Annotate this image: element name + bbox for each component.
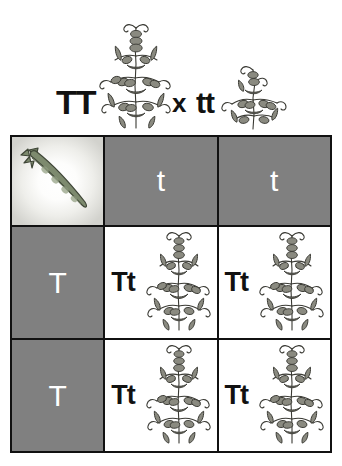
tall-pea-plant-icon <box>256 228 328 331</box>
punnett-offspring-row: T Tt <box>11 339 331 452</box>
row-header-allele-label: T <box>12 381 103 411</box>
tall-pea-plant-icon <box>143 341 215 444</box>
offspring-genotype-label: Tt <box>111 380 134 411</box>
punnett-header-row: t t <box>11 136 331 226</box>
short-pea-plant-icon <box>219 54 289 130</box>
tall-pea-plant-icon <box>93 16 179 130</box>
punnett-corner-cell <box>11 136 104 226</box>
punnett-square: t t T Tt <box>10 135 332 453</box>
tall-pea-plant-icon <box>256 341 328 444</box>
punnett-cell-r1c2: Tt <box>218 226 331 339</box>
punnett-offspring-row: T Tt <box>11 226 331 339</box>
cross-header: TT <box>0 0 342 133</box>
offspring-genotype-label: Tt <box>225 267 248 298</box>
parent-b-genotype-label: tt <box>196 88 214 118</box>
punnett-column-header-1: t <box>104 136 217 226</box>
pea-pod-icon <box>16 139 98 217</box>
punnett-cell-r2c1: Tt <box>104 339 217 452</box>
tall-pea-plant-icon <box>143 228 215 331</box>
punnett-cell-r2c2: Tt <box>218 339 331 452</box>
punnett-column-header-2: t <box>218 136 331 226</box>
punnett-cell-r1c1: Tt <box>104 226 217 339</box>
parent-a-genotype-label: TT <box>56 85 96 119</box>
cross-symbol-label: x <box>172 90 186 116</box>
column-header-allele-label: t <box>219 166 330 196</box>
row-header-allele-label: T <box>12 268 103 298</box>
column-header-allele-label: t <box>105 166 216 196</box>
offspring-genotype-label: Tt <box>111 267 134 298</box>
offspring-genotype-label: Tt <box>225 380 248 411</box>
punnett-row-header-2: T <box>11 339 104 452</box>
punnett-row-header-1: T <box>11 226 104 339</box>
